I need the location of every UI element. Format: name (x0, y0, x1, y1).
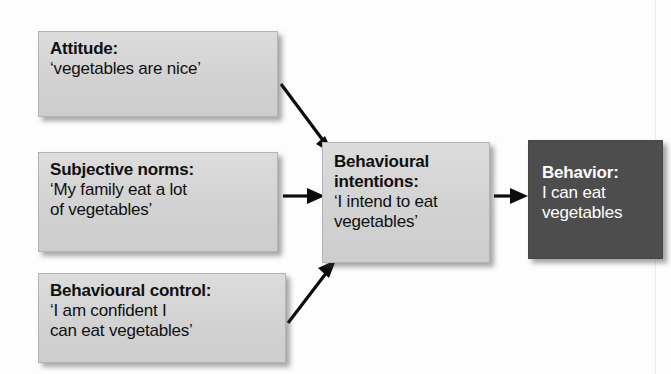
node-attitude-title: Attitude: (50, 39, 268, 59)
node-behavioural-control-body-line1: ‘I am confident I (50, 301, 276, 321)
arrow-intentions-to-behavior (494, 188, 528, 204)
node-behavioural-control-body-line2: can eat vegetables’ (50, 321, 276, 341)
node-behavior[interactable]: Behavior: I can eat vegetables (528, 140, 663, 259)
node-behavioural-control-title: Behavioural control: (50, 281, 276, 301)
node-behavioural-intentions[interactable]: Behavioural intentions: ‘I intend to eat… (322, 142, 490, 263)
node-behavioural-control[interactable]: Behavioural control: ‘I am confident I c… (38, 273, 286, 363)
arrow-behavioural-control-to-intentions (288, 260, 336, 323)
node-attitude[interactable]: Attitude: ‘vegetables are nice’ (38, 31, 278, 117)
node-subjective-norms-title: Subjective norms: (50, 160, 268, 180)
node-attitude-body: ‘vegetables are nice’ (50, 59, 268, 79)
node-behavioural-intentions-title-line2: intentions: (334, 172, 480, 192)
node-behavior-title: Behavior: (542, 163, 653, 183)
node-subjective-norms-body-line2: of vegetables’ (50, 200, 268, 220)
diagram-canvas: Attitude: ‘vegetables are nice’ Subjecti… (0, 0, 671, 374)
node-behavior-body-line2: vegetables (542, 203, 653, 223)
node-behavioural-intentions-body-line1: ‘I intend to eat (334, 192, 480, 212)
node-behavior-body-line1: I can eat (542, 183, 653, 203)
arrow-subjective-norms-to-intentions (283, 188, 325, 204)
node-behavioural-intentions-body-line2: vegetables’ (334, 212, 480, 232)
node-subjective-norms-body-line1: ‘My family eat a lot (50, 180, 268, 200)
node-behavioural-intentions-title-line1: Behavioural (334, 152, 480, 172)
node-subjective-norms[interactable]: Subjective norms: ‘My family eat a lot o… (38, 152, 278, 252)
